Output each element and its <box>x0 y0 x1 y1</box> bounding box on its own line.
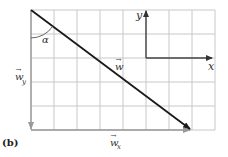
panel-label: (b) <box>2 137 18 148</box>
x-axis-label: x <box>208 60 215 73</box>
y-axis-label: y <box>135 9 143 22</box>
vector-w <box>31 10 190 129</box>
diagram-figure: y x α w → w → y w → x (b) <box>0 0 228 157</box>
coordinate-axes: y x <box>135 9 215 73</box>
svg-text:x: x <box>117 143 121 151</box>
label-w-y: w → y <box>15 66 27 86</box>
svg-text:→: → <box>111 132 117 140</box>
angle-alpha-label: α <box>42 34 49 45</box>
svg-text:y: y <box>21 78 27 86</box>
label-w-x: w → x <box>110 132 121 151</box>
svg-text:→: → <box>16 66 22 74</box>
svg-text:→: → <box>116 56 122 64</box>
force-diagram: y x α w → w → y w → x (b) <box>0 0 228 157</box>
